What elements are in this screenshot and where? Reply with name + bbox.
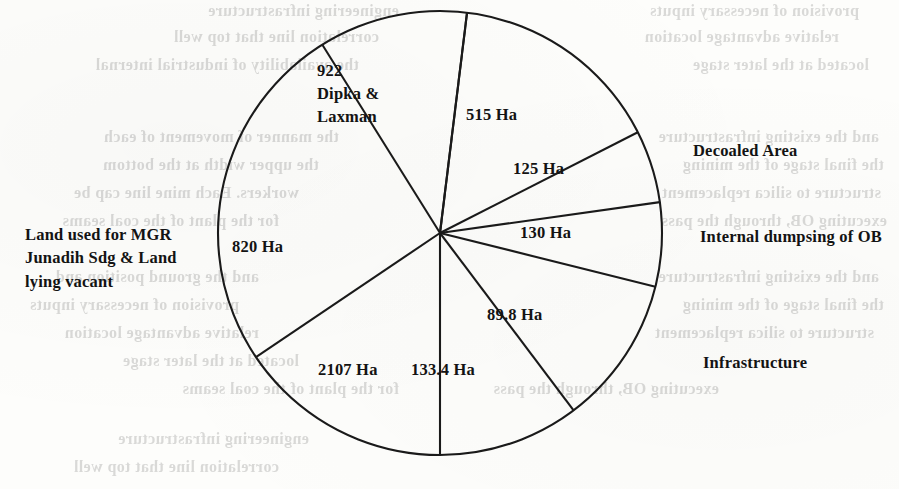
slice-value-2107: 2107 Ha xyxy=(318,359,378,381)
slice-category-decoaled-area: Decoaled Area xyxy=(693,140,797,162)
slice-value-89-8: 89.8 Ha xyxy=(487,304,542,326)
slice-category-infrastructure: Infrastructure xyxy=(703,352,807,374)
pie-spoke xyxy=(440,13,467,233)
slice-category-internal-dumping-ob: Internal dumpsing of OB xyxy=(700,226,882,248)
pie-chart: 515 Ha 125 Ha 130 Ha 89.8 Ha 133.4 Ha 21… xyxy=(0,0,899,489)
slice-value-515: 515 Ha xyxy=(466,104,517,126)
pie-spoke xyxy=(256,233,440,357)
slice-category-mgr-junadih: Land used for MGR Junadih Sdg & Land lyi… xyxy=(25,223,177,293)
slice-value-130: 130 Ha xyxy=(520,222,571,244)
slice-value-922: 922 xyxy=(317,60,342,82)
slice-category-dipka-laxman: Dipka & Laxman xyxy=(317,82,379,129)
slice-value-133-4: 133.4 Ha xyxy=(411,359,475,381)
slice-value-125: 125 Ha xyxy=(513,158,564,180)
slice-value-820: 820 Ha xyxy=(232,236,283,258)
pie-spoke xyxy=(440,132,638,233)
scanned-page: provision of necessary inputs engineerin… xyxy=(0,0,899,489)
